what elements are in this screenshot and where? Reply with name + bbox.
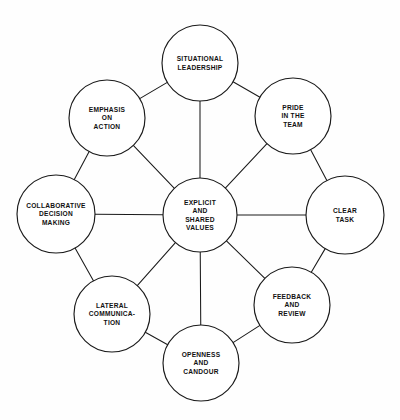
- edge-lateral-communication-to-collaborative-decision-making: [75, 248, 93, 281]
- node-label-line: OPENNESS: [182, 351, 221, 358]
- edge-center-to-emphasis-on-action: [133, 145, 174, 188]
- node-label-line: FEEDBACK: [273, 293, 312, 300]
- node-feedback-and-review[interactable]: FEEDBACKANDREVIEW: [254, 267, 330, 343]
- diagram-canvas: SITUATIONALLEADERSHIPPRIDEIN THETEAMCLEA…: [0, 0, 400, 420]
- node-label-line: AND: [193, 359, 208, 366]
- edge-center-to-feedback-and-review: [226, 241, 264, 279]
- node-label-line: EMPHASIS: [89, 106, 126, 113]
- node-label-line: ON: [102, 114, 112, 121]
- node-label-clear-task: CLEARTASK: [333, 207, 357, 223]
- node-label-line: COLLABORATIVE: [26, 202, 86, 209]
- edge-emphasis-on-action-to-situational-leadership: [140, 82, 168, 98]
- edge-center-to-pride-in-the-team: [225, 144, 267, 188]
- node-label-line: DECISION: [39, 210, 73, 217]
- edge-center-to-lateral-communication: [137, 243, 175, 286]
- node-label-pride-in-the-team: PRIDEIN THETEAM: [281, 104, 304, 128]
- node-label-line: COMMUNICA-: [89, 310, 135, 317]
- node-lateral-communication[interactable]: LATERALCOMMUNICA-TION: [74, 276, 150, 352]
- node-clear-task[interactable]: CLEARTASK: [306, 176, 384, 254]
- nodes-layer: SITUATIONALLEADERSHIPPRIDEIN THETEAMCLEA…: [17, 25, 384, 401]
- edge-openness-and-candour-to-lateral-communication: [145, 332, 167, 344]
- node-label-line: LATERAL: [96, 302, 128, 309]
- node-label-line: SITUATIONAL: [177, 55, 224, 62]
- node-label-line: AND: [192, 207, 207, 214]
- node-label-line: MAKING: [42, 219, 70, 226]
- node-label-line: SHARED: [185, 216, 215, 223]
- node-label-explicit-and-shared-values: EXPLICITANDSHAREDVALUES: [184, 199, 217, 232]
- node-label-line: CANDOUR: [183, 368, 218, 375]
- node-emphasis-on-action[interactable]: EMPHASISONACTION: [69, 80, 145, 156]
- node-label-line: REVIEW: [278, 310, 306, 317]
- node-label-line: IN THE: [281, 112, 304, 119]
- node-label-line: VALUES: [186, 224, 214, 231]
- node-collaborative-decision-making[interactable]: COLLABORATIVEDECISIONMAKING: [17, 175, 95, 253]
- node-openness-and-candour[interactable]: OPENNESSANDCANDOUR: [163, 325, 239, 401]
- node-label-situational-leadership: SITUATIONALLEADERSHIP: [177, 55, 224, 71]
- node-situational-leadership[interactable]: SITUATIONALLEADERSHIP: [162, 25, 238, 101]
- edge-collaborative-decision-making-to-emphasis-on-action: [74, 152, 89, 180]
- edge-clear-task-to-feedback-and-review: [311, 249, 325, 273]
- node-label-line: AND: [284, 301, 299, 308]
- node-label-line: LEADERSHIP: [178, 64, 223, 71]
- node-label-line: PRIDE: [282, 104, 304, 111]
- edge-situational-leadership-to-pride-in-the-team: [233, 82, 260, 97]
- edge-feedback-and-review-to-openness-and-candour: [233, 325, 260, 342]
- node-label-line: EXPLICIT: [184, 199, 217, 206]
- node-label-line: TASK: [336, 216, 354, 223]
- node-label-line: TEAM: [283, 121, 303, 128]
- node-label-line: TION: [104, 319, 121, 326]
- node-label-line: ACTION: [94, 123, 121, 130]
- edge-pride-in-the-team-to-clear-task: [311, 150, 327, 181]
- values-hub-diagram: SITUATIONALLEADERSHIPPRIDEIN THETEAMCLEA…: [0, 0, 400, 420]
- node-label-line: CLEAR: [333, 207, 357, 214]
- node-pride-in-the-team[interactable]: PRIDEIN THETEAM: [255, 78, 331, 154]
- node-explicit-and-shared-values[interactable]: EXPLICITANDSHAREDVALUES: [163, 178, 237, 252]
